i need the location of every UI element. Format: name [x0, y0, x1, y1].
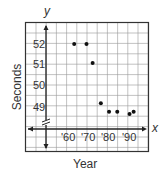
scatter-chart	[0, 0, 164, 176]
data-point	[115, 110, 119, 114]
x-tick-label: '80	[101, 131, 115, 143]
x-axis-left-arrow-icon	[28, 127, 33, 132]
y-axis-title: Seconds	[10, 62, 24, 112]
x-tick-label: '60	[61, 131, 75, 143]
data-point	[91, 61, 95, 65]
y-tick-label: 52	[33, 38, 45, 50]
y-tick-label: 51	[33, 58, 45, 70]
data-point	[128, 112, 132, 116]
data-point	[132, 110, 136, 114]
x-axis-letter: x	[152, 121, 158, 135]
y-tick-label: 49	[33, 101, 45, 113]
data-points	[72, 42, 135, 116]
y-axis-down-arrow-icon	[44, 144, 49, 149]
data-point	[107, 110, 111, 114]
y-axis-up-arrow-icon	[44, 25, 49, 30]
x-tick-label: '90	[122, 131, 136, 143]
y-tick-label: 50	[33, 79, 45, 91]
x-axis-right-arrow-icon	[142, 127, 147, 132]
y-axis-letter: y	[44, 4, 50, 18]
data-point	[99, 101, 103, 105]
x-axis-title: Year	[73, 157, 97, 171]
x-tick-label: '70	[81, 131, 95, 143]
data-point	[72, 42, 76, 46]
data-point	[85, 42, 89, 46]
